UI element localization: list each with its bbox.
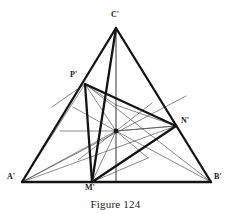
- figure-caption: Figure 124: [0, 198, 231, 210]
- vertex-label-p-prime: P': [70, 71, 77, 79]
- inner-side-mn-line: [92, 126, 176, 182]
- vertex-label-a-prime: A': [7, 173, 15, 181]
- geometry-diagram: [0, 0, 231, 214]
- spoke-center-to-upper-left-line: [73, 107, 116, 131]
- chord-m-to-lower-right-line: [92, 158, 148, 182]
- vertex-label-m-prime: M': [85, 184, 95, 192]
- inner-side-pm-line: [85, 84, 92, 182]
- thin-line-layer: [22, 28, 211, 182]
- vertex-label-b-prime: B': [214, 173, 222, 181]
- vertex-label-n-prime: N': [181, 117, 189, 125]
- center-point-dot: [114, 129, 119, 134]
- chord-lower-right-inner-line: [116, 131, 148, 158]
- outer-side-ac-line: [22, 28, 116, 182]
- vertex-label-c-prime: C': [111, 11, 119, 19]
- spoke-center-to-n-line: [116, 126, 176, 131]
- figure-124-container: A' B' C' P' N' M' Figure 124: [0, 0, 231, 214]
